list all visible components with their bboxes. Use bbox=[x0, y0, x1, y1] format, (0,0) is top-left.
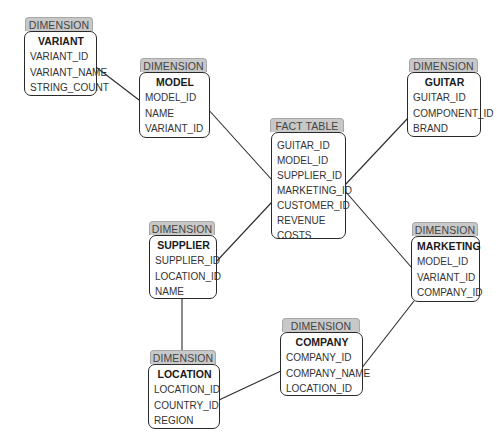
marketing-table[interactable]: MARKETING MODEL_ID VARIANT_ID COMPANY_ID bbox=[411, 236, 480, 302]
table-field: REGION bbox=[154, 413, 215, 429]
table-title: GUITAR bbox=[413, 75, 476, 89]
table-field: SUPPLIER_ID bbox=[155, 253, 212, 269]
link-company-marketing bbox=[361, 301, 414, 369]
table-field: NAME bbox=[145, 106, 205, 122]
table-field: COUNTRY_ID bbox=[154, 398, 215, 414]
supplier-table[interactable]: SUPPLIER SUPPLIER_ID LOCATION_ID NAME bbox=[149, 235, 217, 299]
table-field: GUITAR_ID bbox=[277, 138, 341, 153]
location-table[interactable]: LOCATION LOCATION_ID COUNTRY_ID REGION bbox=[148, 364, 220, 429]
table-title: LOCATION bbox=[154, 367, 215, 381]
table-field: BRAND bbox=[413, 121, 476, 137]
table-field: COMPANY_NAME bbox=[286, 366, 358, 382]
link-location-company bbox=[219, 371, 281, 400]
link-supplier-fact bbox=[215, 202, 272, 263]
table-field: MARKETING_ID bbox=[277, 183, 341, 198]
table-field: VARIANT_NAME bbox=[30, 65, 92, 81]
table-title: MODEL bbox=[145, 75, 205, 89]
table-field: COSTS bbox=[277, 228, 341, 243]
company-table[interactable]: COMPANY COMPANY_ID COMPANY_NAME LOCATION… bbox=[280, 332, 363, 396]
dimension-tab: DIMENSION bbox=[25, 17, 93, 31]
table-field: LOCATION_ID bbox=[154, 382, 215, 398]
table-field: REVENUE bbox=[277, 213, 341, 228]
dimension-tab: DIMENSION bbox=[149, 221, 215, 235]
table-field: COMPANY_ID bbox=[417, 285, 475, 301]
table-field: COMPONENT_ID bbox=[413, 106, 476, 122]
table-field: COMPANY_ID bbox=[286, 350, 358, 366]
table-field: LOCATION_ID bbox=[155, 269, 212, 285]
table-field: LOCATION_ID bbox=[286, 381, 358, 397]
table-title: VARIANT bbox=[30, 34, 92, 48]
fact-table-tab: FACT TABLE bbox=[270, 118, 344, 132]
dimension-tab: DIMENSION bbox=[412, 222, 478, 236]
table-field: GUITAR_ID bbox=[413, 90, 476, 106]
dimension-tab: DIMENSION bbox=[140, 58, 207, 72]
link-fact-marketing bbox=[345, 191, 412, 268]
dimension-tab: DIMENSION bbox=[282, 318, 360, 332]
table-field: STRING_COUNT bbox=[30, 80, 92, 96]
table-field: MODEL_ID bbox=[277, 153, 341, 168]
table-title: SUPPLIER bbox=[155, 238, 212, 252]
link-guitar-fact bbox=[345, 118, 408, 185]
model-table[interactable]: MODEL MODEL_ID NAME VARIANT_ID bbox=[139, 72, 210, 138]
fact-table[interactable]: GUITAR_ID MODEL_ID SUPPLIER_ID MARKETING… bbox=[271, 132, 346, 239]
table-field: CUSTOMER_ID bbox=[277, 198, 341, 213]
variant-table[interactable]: VARIANT VARIANT_ID VARIANT_NAME STRING_C… bbox=[24, 31, 97, 96]
table-field: MODEL_ID bbox=[417, 254, 475, 270]
table-field: MODEL_ID bbox=[145, 90, 205, 106]
table-field: VARIANT_ID bbox=[417, 270, 475, 286]
table-field: NAME bbox=[155, 284, 212, 300]
table-field: SUPPLIER_ID bbox=[277, 168, 341, 183]
table-title: MARKETING bbox=[417, 239, 475, 253]
dimension-tab: DIMENSION bbox=[409, 58, 478, 72]
guitar-table[interactable]: GUITAR GUITAR_ID COMPONENT_ID BRAND bbox=[407, 72, 481, 137]
dimension-tab: DIMENSION bbox=[150, 350, 216, 364]
table-field: VARIANT_ID bbox=[30, 49, 92, 65]
table-field: VARIANT_ID bbox=[145, 121, 205, 137]
table-title: COMPANY bbox=[286, 335, 358, 349]
link-model-fact bbox=[207, 108, 272, 180]
